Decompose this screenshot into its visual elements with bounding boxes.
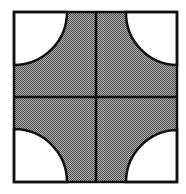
quadrant-diagram [0,0,186,194]
